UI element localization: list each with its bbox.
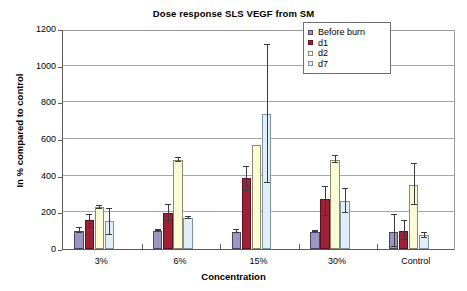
- error-bar-cap: [96, 208, 102, 209]
- error-bar-cap: [264, 182, 270, 183]
- chart-container: Dose response SLS VEGF from SM In % comp…: [0, 0, 467, 291]
- error-bar: [325, 187, 326, 216]
- y-tick-label: 600: [0, 134, 56, 144]
- error-bar-cap: [86, 214, 92, 215]
- error-bar-cap: [233, 229, 239, 230]
- y-tick-label: 1200: [0, 24, 56, 34]
- y-axis-label: In % compared to control: [14, 26, 25, 236]
- error-bar: [267, 45, 268, 183]
- y-tick-label: 0: [0, 244, 56, 254]
- error-bar-cap: [243, 166, 249, 167]
- legend-item[interactable]: d1: [308, 38, 385, 49]
- error-bar-cap: [312, 231, 318, 232]
- bar[interactable]: [330, 160, 340, 249]
- error-bar: [168, 205, 169, 221]
- y-tick-mark: [58, 250, 62, 251]
- bar[interactable]: [310, 232, 320, 249]
- error-bar-cap: [401, 239, 407, 240]
- y-tick-label: 400: [0, 171, 56, 181]
- error-bar-cap: [411, 204, 417, 205]
- y-tick-mark: [58, 140, 62, 141]
- y-tick-label: 1000: [0, 61, 56, 71]
- error-bar-cap: [165, 220, 171, 221]
- x-tick-label: 15%: [219, 256, 298, 266]
- error-bar-cap: [332, 162, 338, 163]
- legend-label: d7: [318, 59, 328, 70]
- y-tick-mark: [58, 213, 62, 214]
- error-bar-cap: [312, 230, 318, 231]
- error-bar-cap: [342, 188, 348, 189]
- error-bar-cap: [185, 218, 191, 219]
- x-tick-mark: [377, 244, 378, 249]
- error-bar-cap: [106, 234, 112, 235]
- error-bar-cap: [322, 186, 328, 187]
- legend-item[interactable]: d2: [308, 48, 385, 59]
- bar[interactable]: [252, 145, 262, 249]
- bar-group: [220, 31, 299, 249]
- legend-item[interactable]: d7: [308, 59, 385, 70]
- x-axis-label: Concentration: [0, 271, 467, 282]
- legend-swatch-icon: [308, 51, 313, 56]
- error-bar-cap: [106, 208, 112, 209]
- error-bar-cap: [342, 212, 348, 213]
- error-bar-cap: [411, 163, 417, 164]
- error-bar-cap: [322, 215, 328, 216]
- chart-title: Dose response SLS VEGF from SM: [0, 8, 467, 19]
- error-bar-cap: [155, 230, 161, 231]
- error-bar-cap: [86, 227, 92, 228]
- error-bar-cap: [264, 44, 270, 45]
- error-bar-cap: [401, 220, 407, 221]
- error-bar-cap: [165, 204, 171, 205]
- error-bar: [345, 189, 346, 214]
- x-tick-label: 6%: [141, 256, 220, 266]
- legend-swatch-icon: [308, 40, 313, 45]
- y-tick-label: 800: [0, 97, 56, 107]
- legend-swatch-icon: [308, 30, 313, 35]
- error-bar-cap: [233, 232, 239, 233]
- y-tick-mark: [58, 67, 62, 68]
- error-bar-cap: [421, 232, 427, 233]
- error-bar-cap: [391, 214, 397, 215]
- error-bar: [109, 209, 110, 235]
- error-bar-cap: [391, 246, 397, 247]
- error-bar-cap: [175, 157, 181, 158]
- bar-group: [142, 31, 221, 249]
- legend-item[interactable]: Before burn: [308, 27, 385, 38]
- x-tick-label: 30%: [298, 256, 377, 266]
- legend: Before burnd1d2d7: [303, 22, 391, 74]
- error-bar-cap: [76, 227, 82, 228]
- bar[interactable]: [232, 232, 242, 249]
- bar[interactable]: [173, 160, 183, 249]
- legend-label: d1: [318, 38, 328, 49]
- bar[interactable]: [153, 231, 163, 249]
- x-tick-mark: [220, 244, 221, 249]
- error-bar-cap: [243, 190, 249, 191]
- error-bar: [246, 167, 247, 192]
- error-bar-cap: [175, 161, 181, 162]
- y-tick-mark: [58, 103, 62, 104]
- x-tick-mark: [299, 244, 300, 249]
- x-tick-label: 3%: [62, 256, 141, 266]
- error-bar-cap: [332, 155, 338, 156]
- y-tick-mark: [58, 30, 62, 31]
- error-bar-cap: [76, 232, 82, 233]
- legend-label: d2: [318, 48, 328, 59]
- error-bar-cap: [155, 229, 161, 230]
- x-tick-label: Control: [376, 256, 455, 266]
- bar[interactable]: [95, 207, 105, 249]
- x-tick-mark: [142, 244, 143, 249]
- bar-group: [63, 31, 142, 249]
- error-bar: [404, 221, 405, 240]
- y-tick-mark: [58, 177, 62, 178]
- error-bar: [394, 215, 395, 247]
- y-tick-label: 200: [0, 207, 56, 217]
- error-bar-cap: [96, 205, 102, 206]
- legend-label: Before burn: [318, 27, 365, 38]
- bar[interactable]: [183, 218, 193, 249]
- error-bar: [414, 164, 415, 205]
- legend-swatch-icon: [308, 61, 313, 66]
- bar[interactable]: [74, 231, 84, 249]
- error-bar-cap: [421, 237, 427, 238]
- plot-area: [62, 30, 455, 250]
- error-bar-cap: [185, 216, 191, 217]
